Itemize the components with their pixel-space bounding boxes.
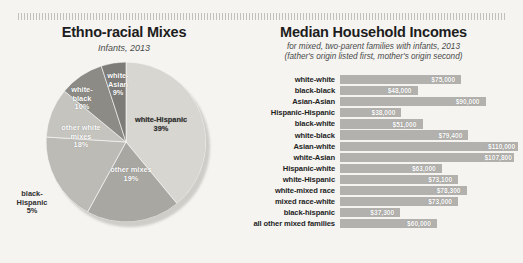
bar-value-label: $73,100: [428, 175, 452, 184]
bar-value-label: $110,000: [488, 142, 515, 151]
pie-slice-label-other-mixes: other mixes 19%: [104, 166, 158, 183]
bar-row-track: $75,000: [340, 75, 523, 84]
bar-value-label: $78,300: [437, 186, 461, 195]
bar-row-label: white-black: [238, 131, 340, 140]
bar-row: black-hispanic$37,300: [238, 207, 523, 218]
bar-row-label: white-white: [238, 75, 340, 84]
decorative-dotted-rule: [18, 13, 505, 20]
bar-chart-subtitle-line2: (father's origin listed first, mother's …: [238, 52, 509, 62]
infographic-page: Ethno-racial Mixes Infants, 2013 white-H…: [0, 0, 523, 263]
pie-chart-title: Ethno-racial Mixes: [0, 24, 238, 40]
bar-row-label: Hispanic-white: [238, 164, 340, 173]
bar-row-label: black-white: [238, 119, 340, 128]
bar-row-track: $38,000: [340, 108, 523, 117]
bar-row: black-white$51,000: [238, 118, 523, 129]
pie-slice-label-other-white-mixes: other white mixes 18%: [52, 124, 110, 150]
bar-row-label: Asian-white: [238, 142, 340, 151]
bar-value-label: $79,400: [438, 131, 462, 140]
bar-value-label: $73,000: [428, 197, 452, 206]
bar-row-label: white-Asian: [238, 153, 340, 162]
bar-value-label: $107,800: [484, 153, 512, 162]
bar-row: white-black$79,400: [238, 129, 523, 140]
bar-row-track: $107,800: [340, 153, 523, 162]
bar-value-label: $51,000: [393, 120, 417, 129]
bar-row-track: $90,000: [340, 97, 523, 106]
pie-chart-subtitle: Infants, 2013: [0, 43, 238, 53]
bar-chart-title: Median Household Incomes: [238, 24, 523, 40]
bar-row-track: $51,000: [340, 119, 523, 128]
pie-chart-panel: Ethno-racial Mixes Infants, 2013 white-H…: [0, 24, 238, 262]
bar-row: white-Asian$107,800: [238, 152, 523, 163]
bar-row-track: $60,000: [340, 219, 523, 228]
bar-value-label: $48,000: [388, 86, 412, 95]
bar-row-track: $110,000: [340, 142, 523, 151]
bar-chart-subtitle-line1: for mixed, two-parent families with infa…: [238, 42, 509, 52]
bar-row-track: $78,300: [340, 186, 523, 195]
bar-row: Hispanic-Hispanic$38,000: [238, 107, 523, 118]
bar-row: Hispanic-white$63,000: [238, 163, 523, 174]
pie-slice-label-black-hispanic: black- Hispanic 5%: [6, 190, 58, 216]
bar-value-label: $75,000: [431, 75, 455, 84]
bar-value-label: $90,000: [456, 97, 480, 106]
bar-row-label: all other mixed families: [238, 219, 340, 228]
bar-chart-rows: white-white$75,000black-black$48,000Asia…: [238, 74, 523, 229]
bar-row: mixed race-white$73,000: [238, 196, 523, 207]
bar-chart-subtitle: for mixed, two-parent families with infa…: [238, 42, 523, 62]
bar-row-label: Hispanic-Hispanic: [238, 108, 340, 117]
bar-row-label: mixed race-white: [238, 197, 340, 206]
pie-slice-label-white-hispanic: white-Hispanic 39%: [130, 116, 192, 133]
bar-row-track: $79,400: [340, 130, 523, 139]
bar-chart-panel: Median Household Incomes for mixed, two-…: [238, 24, 523, 262]
bar-row: black-black$48,000: [238, 85, 523, 96]
bar-value-label: $60,000: [407, 219, 431, 228]
bar-row: white-Hispanic$73,100: [238, 174, 523, 185]
bar-row-track: $48,000: [340, 86, 523, 95]
bar-row: white-white$75,000: [238, 74, 523, 85]
bar-row: all other mixed families$60,000: [238, 218, 523, 229]
pie-slice-label-white-asian: white- Asian 9%: [98, 72, 138, 98]
bar-row: white-mixed race$78,300: [238, 185, 523, 196]
bar-row-label: white-mixed race: [238, 186, 340, 195]
bar-row-label: black-black: [238, 86, 340, 95]
bar-value-label: $38,000: [371, 108, 395, 117]
bar-row-label: black-hispanic: [238, 208, 340, 217]
bar-row-label: white-Hispanic: [238, 175, 340, 184]
bar-row: Asian-white$110,000: [238, 141, 523, 152]
bar-value-label: $37,300: [370, 208, 394, 217]
pie-chart-graphic: white-Hispanic 39% other mixes 19% other…: [46, 62, 214, 230]
bar-row: Asian-Asian$90,000: [238, 96, 523, 107]
bar-row-track: $73,000: [340, 197, 523, 206]
bar-row-label: Asian-Asian: [238, 97, 340, 106]
bar-row-track: $73,100: [340, 175, 523, 184]
bar-row-track: $63,000: [340, 164, 523, 173]
bar-row-track: $37,300: [340, 208, 523, 217]
bar-value-label: $63,000: [412, 164, 436, 173]
